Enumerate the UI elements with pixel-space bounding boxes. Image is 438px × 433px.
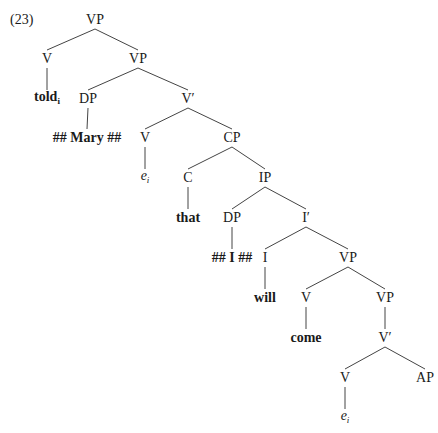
tree-node: ei bbox=[341, 408, 350, 428]
tree-edge bbox=[87, 108, 88, 129]
tree-node: V′ bbox=[181, 91, 194, 107]
tree-edge bbox=[88, 68, 138, 90]
tree-node-label: AP bbox=[416, 370, 434, 385]
tree-node: CP bbox=[223, 130, 240, 146]
tree-node: that bbox=[176, 210, 200, 226]
tree-node-label: VP bbox=[376, 290, 394, 305]
tree-node: V bbox=[42, 51, 52, 67]
tree-node: IP bbox=[259, 170, 271, 186]
tree-node-label: ## I ## bbox=[212, 250, 252, 265]
tree-node: I′ bbox=[302, 210, 310, 226]
tree-node: V bbox=[140, 130, 150, 146]
tree-node-label: V bbox=[340, 370, 350, 385]
tree-node: AP bbox=[416, 370, 434, 386]
tree-node: I bbox=[263, 250, 268, 266]
tree-node: VP bbox=[129, 51, 147, 67]
index-subscript: i bbox=[147, 175, 150, 185]
tree-edge bbox=[306, 267, 348, 289]
tree-node: VP bbox=[86, 12, 104, 28]
tree-node-label: V bbox=[301, 290, 311, 305]
tree-node-label: told bbox=[34, 89, 57, 104]
tree-node: DP bbox=[223, 210, 241, 226]
tree-node-label: DP bbox=[223, 210, 241, 225]
tree-node: come bbox=[290, 330, 321, 346]
tree-node-label: DP bbox=[79, 91, 97, 106]
tree-node: VP bbox=[376, 290, 394, 306]
tree-node-label: V′ bbox=[181, 91, 194, 106]
tree-node-label: I′ bbox=[302, 210, 310, 225]
tree-edge bbox=[232, 187, 265, 209]
tree-node-label: V bbox=[42, 51, 52, 66]
tree-edge bbox=[188, 147, 232, 169]
tree-node-label: VP bbox=[339, 250, 357, 265]
tree-edge bbox=[138, 68, 188, 90]
tree-node: toldi bbox=[34, 89, 60, 109]
tree-edge bbox=[265, 227, 306, 249]
tree-edge bbox=[265, 187, 306, 209]
tree-node: V′ bbox=[378, 330, 391, 346]
tree-edge bbox=[348, 267, 385, 289]
tree-node-label: V bbox=[140, 130, 150, 145]
tree-edge bbox=[232, 147, 265, 169]
tree-node: DP bbox=[79, 91, 97, 107]
tree-node: will bbox=[254, 290, 276, 306]
tree-node-label: will bbox=[254, 290, 276, 305]
tree-node: ## I ## bbox=[212, 250, 252, 266]
tree-node-label: C bbox=[183, 170, 192, 185]
tree-node: ei bbox=[141, 168, 150, 188]
tree-edge bbox=[306, 227, 348, 249]
index-subscript: i bbox=[57, 96, 60, 106]
tree-node-label: VP bbox=[86, 12, 104, 27]
tree-node: V bbox=[301, 290, 311, 306]
tree-node-label: CP bbox=[223, 130, 240, 145]
tree-node: VP bbox=[339, 250, 357, 266]
tree-edge bbox=[47, 29, 95, 50]
tree-node: V bbox=[340, 370, 350, 386]
tree-edges bbox=[0, 0, 438, 433]
tree-node: C bbox=[183, 170, 192, 186]
tree-edge bbox=[95, 29, 138, 50]
tree-node-label: come bbox=[290, 330, 321, 345]
tree-edge bbox=[145, 108, 188, 129]
tree-edge bbox=[385, 347, 425, 369]
tree-node-label: VP bbox=[129, 51, 147, 66]
tree-node: ## Mary ## bbox=[53, 130, 121, 146]
tree-node-label: ## Mary ## bbox=[53, 130, 121, 145]
tree-node-label: that bbox=[176, 210, 200, 225]
tree-edge bbox=[345, 347, 385, 369]
tree-node-label: V′ bbox=[378, 330, 391, 345]
tree-node-label: I bbox=[263, 250, 268, 265]
tree-node-label: IP bbox=[259, 170, 271, 185]
index-subscript: i bbox=[347, 415, 350, 425]
tree-edge bbox=[188, 108, 232, 129]
